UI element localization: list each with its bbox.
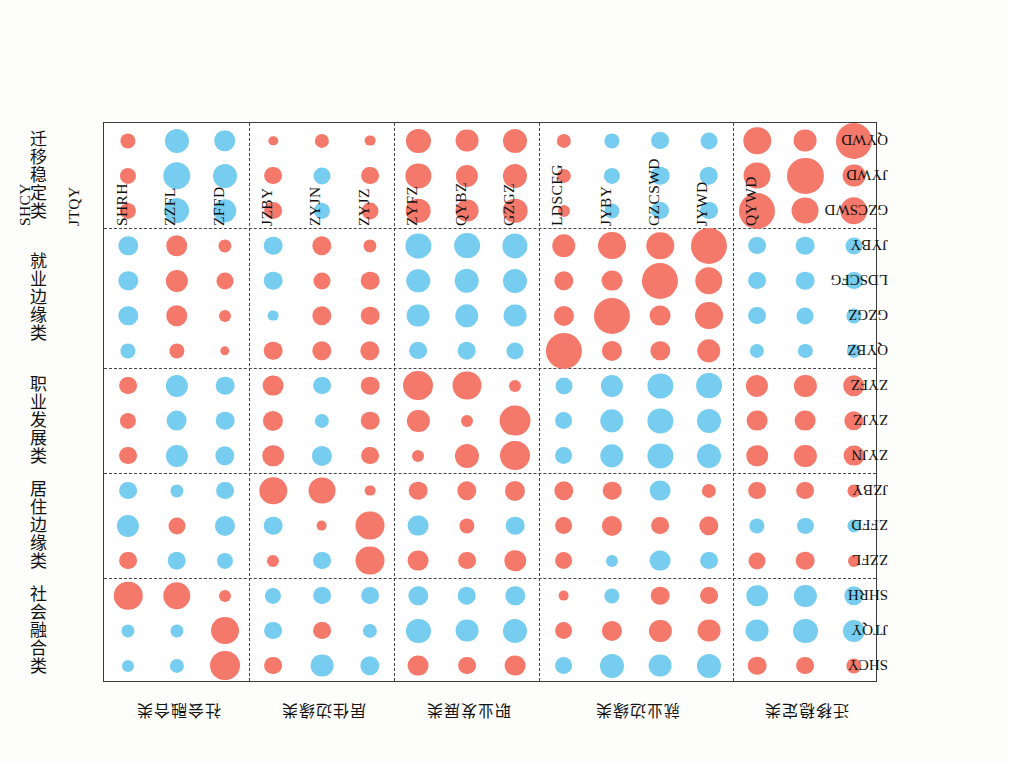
bubble-JZBY-ZYJN (409, 481, 428, 500)
bubble-JYBY-GZGZ (598, 232, 626, 260)
bubble-JYWD-JZBY (361, 167, 379, 185)
bubble-JTQY-ZZFL (264, 622, 282, 640)
bubble-QYBZ-ZYJN (410, 342, 428, 360)
bubble-ZZFL-JYWD (796, 551, 815, 570)
bubble-ZYJN-JYWD (794, 444, 816, 466)
bubble-LDSCFG-JTQY (165, 269, 187, 291)
bubble-ZFFD-JTQY (168, 517, 185, 534)
bubble-LDSCFG-ZYFZ (503, 268, 527, 292)
bubble-QYBZ-GZCSWD (750, 343, 764, 357)
row-label-SHCY: SHCY (848, 656, 888, 673)
bubble-JZBY-SHCY (119, 482, 137, 500)
row-label-SHRH: SHRH (848, 586, 888, 603)
bottom-group-label-0: 社会融合类 (136, 700, 221, 724)
bubble-LDSCFG-GZGZ (602, 270, 623, 291)
bubble-ZYJZ-ZFFD (315, 413, 329, 427)
bubble-JTQY-SHRH (211, 617, 239, 645)
bubble-QYWD-ZYFZ (503, 128, 527, 152)
bubble-QYBZ-SHRH (220, 346, 229, 355)
bubble-QYWD-QYBZ (556, 133, 570, 147)
bubble-QYBZ-QYBZ (546, 332, 582, 368)
bubble-SHCY-LDSCFG (649, 654, 672, 677)
bubble-ZYJZ-JYWD (795, 410, 816, 431)
bubble-ZFFD-ZFFD (316, 520, 327, 531)
bubble-ZYFZ-ZFFD (313, 377, 331, 395)
bubble-JYWD-ZYJN (406, 163, 431, 188)
bubble-JYBY-ZFFD (312, 236, 331, 255)
bubble-GZGZ-ZYFZ (504, 304, 527, 327)
bubble-QYBZ-JYWD (798, 343, 812, 357)
bubble-LDSCFG-ZZFL (264, 271, 283, 290)
bubble-ZYFZ-SHRH (216, 376, 235, 395)
bubble-ZYJN-ZYFZ (500, 441, 530, 471)
bubble-GZGZ-JYWD (797, 307, 814, 324)
bubble-JYBY-QYBZ (552, 234, 575, 257)
bubble-SHCY-SHCY (122, 659, 134, 671)
bubble-QYBZ-ZYFZ (507, 342, 524, 359)
bubble-ZZFL-JYBY (700, 552, 718, 570)
bubble-JZBY-ZFFD (308, 477, 335, 504)
left-group-label-3: 居住边缘类 (28, 480, 45, 570)
left-group-label-4: 社会融合类 (28, 585, 45, 675)
bubble-JYBY-SHRH (218, 239, 231, 252)
bubble-LDSCFG-SHCY (118, 271, 137, 290)
bubble-ZYJN-LDSCFG (648, 443, 673, 468)
row-label-LDSCFG: LDSCFG (830, 271, 888, 288)
bubble-JZBY-GZGZ (603, 481, 622, 500)
bubble-SHRH-ZYJN (409, 586, 428, 605)
bubble-ZZFL-JTQY (167, 551, 186, 570)
left-group-label-2: 职业发展类 (28, 375, 45, 465)
bubble-SHCY-JYBY (697, 653, 721, 677)
row-label-ZYFZ: ZYFZ (851, 376, 889, 393)
row-label-ZZFL: ZZFL (852, 551, 888, 568)
bubble-JTQY-JYBY (697, 619, 720, 642)
bubble-ZYJZ-JTQY (166, 410, 187, 431)
bubble-SHRH-JYWD (794, 584, 816, 606)
bubble-SHRH-JYBY (700, 587, 718, 605)
bubble-JTQY-GZGZ (602, 620, 622, 640)
bubble-SHCY-ZYFZ (505, 655, 526, 676)
bubble-ZZFL-ZFFD (313, 552, 331, 570)
bubble-JTQY-GZCSWD (746, 619, 769, 642)
bubble-JZBY-JYWD (797, 482, 815, 500)
bubble-JYBY-ZYJN (406, 233, 431, 258)
bubble-ZFFD-SHRH (215, 515, 235, 535)
bubble-SHCY-GZGZ (600, 653, 624, 677)
bubble-ZYJN-ZFFD (312, 445, 332, 465)
bubble-SHCY-ZYJZ (458, 657, 476, 675)
bubble-ZYJZ-SHCY (120, 412, 136, 428)
row-label-ZYJZ: ZYJZ (853, 411, 888, 428)
bubble-ZYJN-JZBY (361, 447, 379, 465)
bubble-GZGZ-SHRH (219, 309, 231, 321)
bubble-ZYJZ-ZYJN (407, 409, 429, 431)
bubble-JTQY-JTQY (170, 624, 183, 637)
bottom-group-label-1: 居住边缘类 (281, 700, 366, 724)
bottom-group-label-2: 职业发展类 (426, 700, 511, 724)
row-label-JTQY: JTQY (851, 621, 888, 638)
bubble-ZYFZ-GZCSWD (746, 374, 768, 396)
bubble-ZYJN-QYBZ (555, 447, 573, 465)
row-label-ZFFD: ZFFD (851, 516, 888, 533)
row-group-separator-3 (104, 578, 876, 579)
row-label-QYWD: QYWD (841, 131, 888, 148)
bubble-JTQY-ZYJZ (455, 619, 478, 642)
bottom-group-label-4: 迁移稳定类 (764, 700, 849, 724)
bubble-JTQY-QYBZ (555, 622, 573, 640)
bubble-JTQY-ZFFD (313, 622, 331, 640)
bubble-JYBY-ZYFZ (503, 233, 528, 258)
bubble-JTQY-JZBY (363, 623, 377, 637)
bubble-ZYJZ-LDSCFG (648, 408, 673, 433)
bubble-ZFFD-LDSCFG (651, 517, 669, 535)
row-label-JYBY: JYBY (850, 236, 888, 253)
bubble-GZGZ-ZYJZ (455, 304, 478, 327)
bubble-JYBY-LDSCFG (647, 232, 674, 259)
bubble-ZYJN-SHRH (215, 446, 234, 465)
bubble-JTQY-JYWD (793, 618, 817, 642)
bubble-JYBY-ZYJZ (454, 233, 480, 259)
bubble-SHRH-ZZFL (265, 587, 281, 603)
bubble-ZZFL-GZGZ (606, 554, 618, 566)
bubble-ZYJZ-GZCSWD (747, 410, 768, 431)
bubble-QYWD-JYBY (700, 132, 717, 149)
bubble-ZFFD-JYBY (699, 516, 718, 535)
bubble-ZYJZ-JZBY (361, 411, 380, 430)
